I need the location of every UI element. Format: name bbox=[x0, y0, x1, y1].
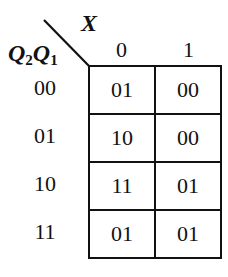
row-header-01: 01 bbox=[20, 123, 70, 149]
grid-cell: 11 bbox=[89, 162, 155, 210]
grid-cell: 01 bbox=[89, 210, 155, 258]
row-variable-q2-subscript: 2 bbox=[25, 52, 33, 68]
karnaugh-map: X Q2Q1 0 1 00 01 10 11 01 00 10 00 11 01… bbox=[0, 0, 228, 277]
grid-cell: 01 bbox=[155, 210, 221, 258]
grid-row: 10 00 bbox=[89, 114, 221, 162]
column-header-0: 0 bbox=[88, 37, 155, 63]
row-variable-q1: Q bbox=[33, 40, 50, 66]
grid-cell: 10 bbox=[89, 114, 155, 162]
row-header-00: 00 bbox=[20, 75, 70, 101]
column-header-1: 1 bbox=[155, 37, 222, 63]
row-variable-q1-subscript: 1 bbox=[50, 52, 58, 68]
row-variable-q2: Q bbox=[8, 40, 25, 66]
column-variable-label: X bbox=[81, 10, 97, 37]
grid-cell: 01 bbox=[155, 162, 221, 210]
row-header-11: 11 bbox=[20, 219, 70, 245]
kmap-grid: 01 00 10 00 11 01 01 01 bbox=[88, 65, 222, 259]
grid-cell: 00 bbox=[155, 114, 221, 162]
column-variable-text: X bbox=[81, 10, 97, 36]
grid-cell: 00 bbox=[155, 66, 221, 114]
grid-row: 01 01 bbox=[89, 210, 221, 258]
row-variables-label: Q2Q1 bbox=[8, 40, 58, 69]
grid-cell: 01 bbox=[89, 66, 155, 114]
row-header-10: 10 bbox=[20, 171, 70, 197]
grid-row: 01 00 bbox=[89, 66, 221, 114]
grid-row: 11 01 bbox=[89, 162, 221, 210]
